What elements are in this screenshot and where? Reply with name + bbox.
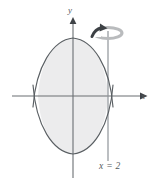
x-axis-label: x — [141, 92, 145, 101]
math-figure: y x x = 2 — [0, 0, 152, 188]
axis-of-revolution-label: x = 2 — [99, 162, 121, 172]
arrowhead-up-icon — [70, 17, 77, 24]
rotation-arrowhead-icon — [100, 24, 108, 32]
figure-canvas — [0, 0, 152, 188]
y-axis-label: y — [68, 6, 72, 15]
